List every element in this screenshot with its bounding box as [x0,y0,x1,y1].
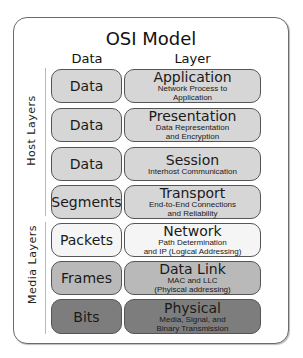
data-unit-box: Data [51,108,122,142]
layer-name: Application [153,70,231,84]
layer-desc: MAC and LLC [167,276,217,285]
layer-row-presentation: Data Presentation Data Representation an… [51,108,261,142]
osi-model-frame: OSI Model Data Layer Host Layers Media L… [13,17,289,344]
media-layers-label: Media Layers [26,225,39,305]
data-unit-box: Packets [51,223,122,257]
data-unit-box: Data [51,69,122,103]
layer-desc: Interhost Communication [148,167,237,176]
data-unit-box: Bits [51,299,122,334]
data-unit-box: Data [51,147,122,181]
layer-name: Transport [160,186,226,200]
layer-name: Data Link [159,262,226,276]
layer-row-session: Data Session Interhost Communication [51,147,261,181]
layer-row-application: Data Application Network Process to Appl… [51,69,261,103]
layer-box: Physical Media, Signal, and Binary Trans… [124,299,261,334]
layer-row-data-link: Frames Data Link MAC and LLC (Phyiscal a… [51,261,261,295]
layer-desc: End-to-End Connections [149,200,236,209]
layer-name: Network [163,224,221,238]
host-layers-divider [45,68,46,216]
data-unit-box: Segments [51,185,122,219]
column-header-layer: Layer [124,51,261,66]
column-header-data: Data [51,51,123,66]
media-layers-divider [45,222,46,334]
layer-box: Application Network Process to Applicati… [124,69,261,103]
host-layers-label: Host Layers [25,91,38,171]
layer-desc: Path Determination [158,238,226,247]
layer-box: Transport End-to-End Connections and Rel… [124,185,261,219]
layer-desc: Media, Signal, and [159,315,225,324]
diagram-title: OSI Model [14,28,288,49]
layer-desc: Network Process to [158,84,227,93]
layer-desc: and Encryption [166,132,219,141]
layer-desc: and IP (Logical Addressing) [144,247,242,256]
layer-box: Data Link MAC and LLC (Phyiscal addressi… [124,261,261,295]
data-unit-box: Frames [51,261,122,295]
layer-box: Presentation Data Representation and Enc… [124,108,261,142]
layer-box: Network Path Determination and IP (Logic… [124,223,261,257]
layer-name: Session [166,153,219,167]
layer-name: Presentation [149,109,237,123]
layer-desc: Application [173,93,212,102]
layer-row-physical: Bits Physical Media, Signal, and Binary … [51,299,261,334]
layer-row-transport: Segments Transport End-to-End Connection… [51,185,261,219]
layer-desc: Binary Transmission [156,324,228,333]
layer-desc: (Phyiscal addressing) [154,285,230,294]
layer-row-network: Packets Network Path Determination and I… [51,223,261,257]
layer-box: Session Interhost Communication [124,147,261,181]
layer-name: Physical [164,301,221,315]
layer-desc: and Reliability [168,209,218,218]
layer-desc: Data Representation [156,123,229,132]
